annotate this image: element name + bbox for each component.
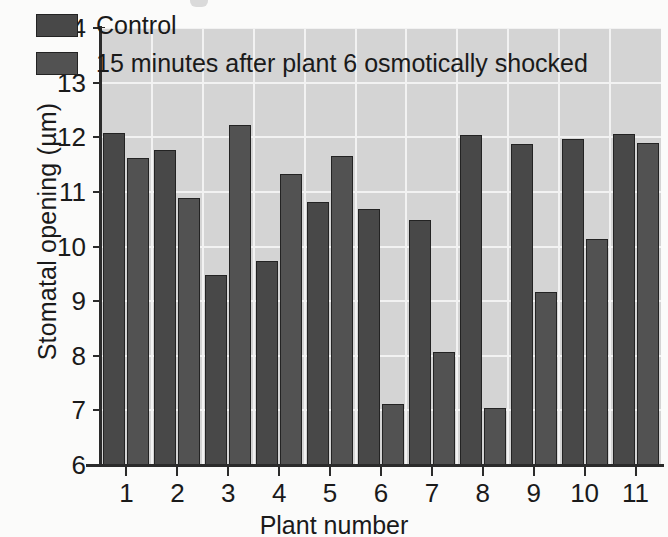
y-tick-label: 7: [72, 395, 86, 426]
x-tick-label-2: 2: [170, 478, 184, 509]
x-axis-ticks: Plant number 1234567891011: [0, 465, 668, 537]
gridline-vertical: [558, 28, 560, 465]
bar-plant-10-control: [562, 139, 584, 465]
x-tick-label-3: 3: [221, 478, 235, 509]
bar-plant-5-shocked: [331, 156, 353, 465]
legend-swatch-control: [36, 14, 78, 37]
bar-plant-8-control: [460, 135, 482, 465]
y-tick-label: 10: [57, 231, 86, 262]
gridline-vertical: [456, 28, 458, 465]
bar-plant-4-control: [256, 261, 278, 465]
x-tick-mark: [125, 465, 127, 476]
gridline-horizontal: [101, 136, 661, 138]
cropped-title-descender: [190, 0, 208, 7]
gridline-vertical: [355, 28, 357, 465]
bar-plant-6-shocked: [382, 404, 404, 465]
bar-plant-11-shocked: [637, 143, 659, 465]
bar-plant-5-control: [307, 202, 329, 465]
bar-plant-2-shocked: [178, 198, 200, 465]
bar-plant-8-shocked: [484, 408, 506, 465]
gridline-vertical: [202, 28, 204, 465]
x-tick-mark: [584, 465, 586, 476]
x-tick-mark: [329, 465, 331, 476]
bar-plant-9-shocked: [535, 292, 557, 465]
bar-plant-1-shocked: [127, 158, 149, 465]
x-tick-mark: [380, 465, 382, 476]
bar-plant-3-control: [205, 275, 227, 465]
y-tick-label: 8: [72, 340, 86, 371]
chart-legend: Control 15 minutes after plant 6 osmotic…: [36, 8, 588, 84]
x-tick-label-9: 9: [526, 478, 540, 509]
x-axis-title: Plant number: [0, 511, 668, 537]
y-axis-line: [99, 26, 102, 467]
x-tick-label-5: 5: [323, 478, 337, 509]
bar-plant-10-shocked: [586, 239, 608, 465]
gridline-vertical: [405, 28, 407, 465]
bar-plant-4-shocked: [280, 174, 302, 465]
x-tick-label-7: 7: [425, 478, 439, 509]
x-tick-label-1: 1: [119, 478, 133, 509]
x-tick-mark: [482, 465, 484, 476]
x-tick-mark: [227, 465, 229, 476]
x-tick-mark: [176, 465, 178, 476]
legend-label-control: Control: [96, 11, 177, 40]
gridline-vertical: [253, 28, 255, 465]
y-tick-label: 11: [59, 176, 86, 207]
legend-entry-shocked: 15 minutes after plant 6 osmotically sho…: [36, 46, 588, 80]
y-tick-label: 12: [57, 122, 86, 153]
x-tick-label-8: 8: [476, 478, 490, 509]
x-tick-label-11: 11: [622, 478, 649, 509]
bar-plant-1-control: [103, 133, 125, 465]
bar-plant-11-control: [613, 134, 635, 465]
bar-plant-7-shocked: [433, 352, 455, 465]
x-tick-label-6: 6: [374, 478, 388, 509]
x-tick-mark: [278, 465, 280, 476]
bar-plant-3-shocked: [229, 125, 251, 465]
bar-plant-7-control: [409, 220, 431, 465]
y-tick-label: 9: [72, 286, 86, 317]
bar-plant-2-control: [154, 150, 176, 465]
legend-swatch-shocked: [36, 52, 78, 75]
plot-area: [101, 28, 661, 465]
bar-plant-9-control: [511, 144, 533, 465]
x-tick-mark: [533, 465, 535, 476]
bar-plant-6-control: [358, 209, 380, 465]
legend-entry-control: Control: [36, 8, 588, 42]
x-tick-mark: [431, 465, 433, 476]
gridline-vertical: [609, 28, 611, 465]
bar-chart-figure: Stomatal opening (µm) 67891011121314 Pla…: [0, 0, 668, 537]
x-tick-mark: [635, 465, 637, 476]
x-tick-label-10: 10: [570, 478, 599, 509]
x-tick-label-4: 4: [272, 478, 286, 509]
gridline-vertical: [507, 28, 509, 465]
gridline-vertical: [304, 28, 306, 465]
gridline-vertical: [151, 28, 153, 465]
legend-label-shocked: 15 minutes after plant 6 osmotically sho…: [96, 49, 588, 78]
